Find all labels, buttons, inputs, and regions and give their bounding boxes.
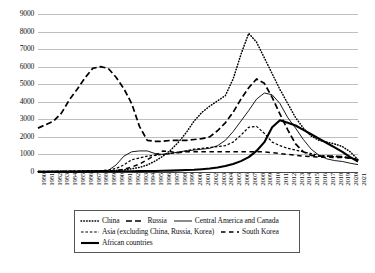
y-axis-tick-label: 5000 [20,80,34,88]
legend-item[interactable]: African countries [81,239,153,247]
series-line [38,120,358,172]
legend-line-swatch-icon [81,228,99,236]
x-axis-tick-label: 2011 [283,173,290,186]
x-axis-tick-label: 2006 [244,173,251,186]
legend-item[interactable]: Russia [126,217,166,225]
y-axis-tick-label: 0 [30,168,34,176]
legend-row: African countries [81,237,294,248]
x-axis-tick-label: 1991 [127,173,134,186]
legend-label: African countries [102,239,153,247]
x-axis-tick-label: 2017 [330,173,337,186]
x-axis-tick-label: 1981 [49,173,56,186]
x-axis-tick-label: 1997 [174,173,181,186]
y-axis-tick-label: 8000 [20,28,34,36]
legend-line-swatch-icon [221,228,239,236]
x-axis-tick-label: 1986 [88,173,95,186]
series-line [38,67,358,160]
legend-line-swatch-icon [81,239,99,247]
x-axis-tick-label: 1996 [166,173,173,186]
y-axis: 0100020003000400050006000700080009000 [0,0,38,176]
plot-area [38,14,358,172]
chart-legend: ChinaRussiaCentral America and Canada As… [74,210,300,253]
legend-item[interactable]: South Korea [221,228,279,236]
y-axis-tick-label: 2000 [20,133,34,141]
x-axis-tick-label: 2016 [322,173,329,186]
x-axis-tick-label: 1990 [119,173,126,186]
x-axis-tick-label: 1980 [41,173,48,186]
legend-row: Asia (excluding China, Russia, Korea)Sou… [81,226,294,237]
legend-item[interactable]: China [81,217,119,225]
legend-line-swatch-icon [126,217,144,225]
series-line [38,33,358,171]
legend-label: South Korea [242,228,279,236]
x-axis-tick-label: 2012 [291,173,298,186]
x-axis: 1980198119821983198419851986198719881989… [38,173,358,207]
legend-label: Central America and Canada [195,217,279,225]
legend-label: Asia (excluding China, Russia, Korea) [102,228,214,236]
x-axis-tick-label: 2021 [361,173,368,186]
y-axis-tick-label: 6000 [20,63,34,71]
x-axis-tick-label: 2001 [205,173,212,186]
legend-label: China [102,217,119,225]
line-chart: 0100020003000400050006000700080009000 19… [0,0,375,273]
x-axis-tick-label: 2002 [213,173,220,186]
legend-item[interactable]: Asia (excluding China, Russia, Korea) [81,228,214,236]
y-axis-tick-label: 3000 [20,116,34,124]
series-line [38,93,358,171]
y-axis-tick-label: 4000 [20,98,34,106]
y-axis-tick-label: 7000 [20,45,34,53]
legend-row: ChinaRussiaCentral America and Canada [81,215,294,226]
y-axis-tick-label: 1000 [20,151,34,159]
legend-item[interactable]: Central America and Canada [174,217,279,225]
x-axis-tick-label: 2007 [252,173,259,186]
legend-line-swatch-icon [174,217,192,225]
series-layer [38,14,358,172]
legend-line-swatch-icon [81,217,99,225]
y-axis-tick-label: 9000 [20,10,34,18]
x-axis-tick-label: 1985 [80,173,87,186]
legend-label: Russia [147,217,166,225]
x-axis-tick-label: 1992 [135,173,142,186]
